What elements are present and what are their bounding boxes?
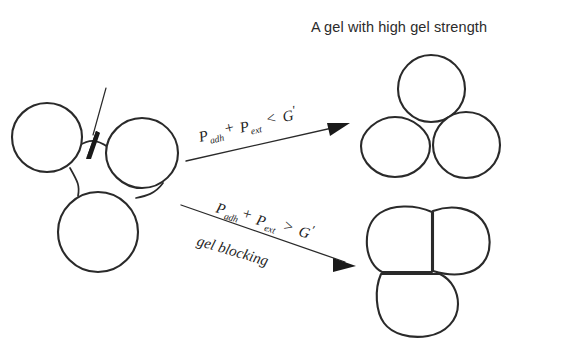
right-arrow-icon-lower	[333, 258, 356, 272]
source-cluster	[12, 88, 178, 272]
arrow-pointer-icon	[86, 88, 106, 159]
source-particle-bottom	[58, 192, 138, 272]
upper-arrow-shaft	[186, 126, 341, 161]
page-title: A gel with high gel strength	[311, 19, 487, 35]
upper-transition: P adh + P ext < G ′	[186, 102, 350, 161]
lower-condition-equation: P adh + P ext > G ′	[212, 194, 316, 246]
result-particle-top	[398, 55, 465, 122]
blob-bottom	[377, 274, 458, 337]
result-particle-bottom-right	[433, 112, 500, 178]
neck-connector-left	[70, 168, 79, 196]
lower-result-cluster	[367, 206, 490, 336]
gel-blocking-label: gel blocking	[195, 233, 271, 269]
upper-eq-sub1: adh	[209, 133, 225, 146]
upper-condition-equation: P adh + P ext < G ′	[195, 102, 299, 148]
lower-eq-plus: +	[241, 204, 254, 223]
lower-transition: P adh + P ext > G ′ gel blocking	[181, 194, 356, 272]
figure-root: A gel with high gel strength	[0, 0, 561, 345]
source-particle-left	[12, 103, 82, 172]
upper-eq-p2: P	[237, 118, 250, 136]
right-arrow-icon-upper	[327, 123, 350, 136]
upper-eq-plus: +	[223, 118, 236, 137]
upper-eq-sub2: ext	[250, 124, 263, 136]
lower-eq-relation: >	[282, 217, 295, 236]
upper-eq-relation: <	[265, 109, 278, 128]
source-particle-right	[106, 118, 178, 188]
lower-eq-sub1: adh	[223, 211, 240, 225]
blob-upper-right	[433, 208, 490, 275]
upper-result-cluster	[361, 55, 500, 178]
diagram-canvas: A gel with high gel strength	[0, 0, 561, 345]
lower-outcome-label-group: gel blocking	[195, 233, 271, 269]
result-particle-bottom-left	[361, 117, 430, 177]
blob-upper-left	[367, 206, 432, 272]
upper-eq-p1: P	[196, 127, 209, 145]
